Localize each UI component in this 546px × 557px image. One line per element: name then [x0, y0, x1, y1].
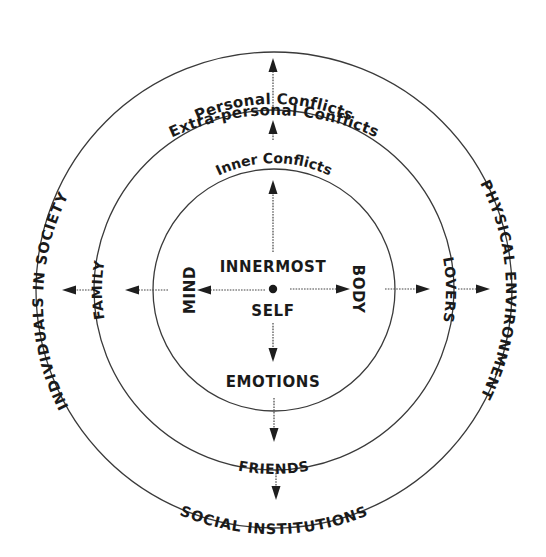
- arrow-down-middle: [270, 398, 279, 442]
- arrow-right-outer: [458, 285, 490, 294]
- conflict-circles-diagram: INNERMOST SELF Inner Conflicts MIND BODY…: [0, 0, 546, 557]
- center-dot: [269, 285, 277, 293]
- arrow-left-inner: [197, 286, 265, 295]
- center-label-self: SELF: [251, 302, 294, 320]
- center-label-innermost: INNERMOST: [220, 258, 327, 276]
- arrow-left-middle: [125, 286, 168, 295]
- outer-ring-label-individuals-in-society: INDIVIDUALS IN SOCIETY: [30, 189, 71, 413]
- inner-ring-label-body: BODY: [349, 265, 367, 314]
- arrow-right-inner: [290, 285, 350, 294]
- arrow-down-inner: [269, 323, 278, 362]
- outer-ring-label-social-institutions: SOCIAL INSTITUTIONS: [178, 503, 370, 537]
- arrow-right-middle: [385, 285, 430, 294]
- arrow-up-middle: [269, 120, 278, 140]
- middle-ring-label-friends: FRIENDS: [237, 458, 310, 477]
- inner-ring-label-mind: MIND: [181, 266, 199, 314]
- inner-ring-label-emotions: EMOTIONS: [226, 373, 321, 391]
- middle-ring-label-lovers: LOVERS: [440, 256, 459, 325]
- inner-ring-title: Inner Conflicts: [213, 150, 335, 179]
- arrow-up-inner: [269, 180, 278, 252]
- middle-ring-label-family: FAMILY: [89, 259, 107, 321]
